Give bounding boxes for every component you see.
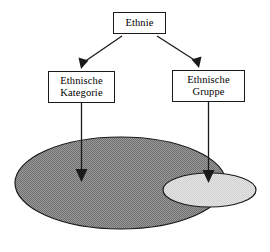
node-ethnie: Ethnie: [113, 12, 166, 34]
node-ethnische-gruppe: Ethnische Gruppe: [172, 70, 245, 102]
diagram-canvas: Ethnie Ethnische Kategorie Ethnische Gru…: [0, 0, 270, 252]
arrow-gruppe-to-small-ellipse: [203, 102, 215, 183]
node-ethnische-gruppe-label: Ethnische Gruppe: [187, 74, 229, 98]
arrow-ethnie-to-gruppe: [157, 36, 202, 68]
arrow-ethnie-to-kategorie: [79, 36, 123, 69]
diagram-vector-layer: [0, 0, 270, 252]
node-ethnie-label: Ethnie: [125, 17, 153, 29]
node-ethnische-kategorie: Ethnische Kategorie: [48, 71, 115, 103]
node-ethnische-kategorie-label: Ethnische Kategorie: [60, 75, 102, 99]
